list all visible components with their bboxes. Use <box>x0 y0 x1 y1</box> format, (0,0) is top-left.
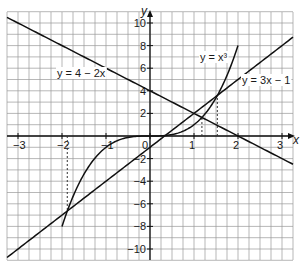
y-tick-label: −10 <box>127 243 146 255</box>
label-x-cubed: y = x³ <box>200 51 228 63</box>
x-tick-label: 3 <box>277 139 283 151</box>
label-4-minus-2x: y = 4 − 2x <box>57 67 106 79</box>
y-tick-label: 6 <box>140 62 146 74</box>
x-tick-label: −3 <box>13 139 26 151</box>
y-tick-label: −6 <box>133 198 146 210</box>
y-axis-name: y <box>140 4 148 18</box>
y-tick-label: 10 <box>134 17 146 29</box>
y-tick-label: 8 <box>140 40 146 52</box>
y-tick-label: −4 <box>133 175 146 187</box>
x-tick-label: 2 <box>233 139 239 151</box>
y-axis-arrow-icon <box>147 10 153 17</box>
label-3x-minus-1: y = 3x − 1 <box>242 74 290 86</box>
graph-figure: −3−2−10123−10−8−6−4−2246810 y = 4 − 2x y… <box>0 0 303 268</box>
y-tick-label: 2 <box>140 107 146 119</box>
plot-area: −3−2−10123−10−8−6−4−2246810 y = 4 − 2x y… <box>0 0 303 268</box>
y-tick-label: −8 <box>133 220 146 232</box>
x-axis-name: x <box>292 133 300 147</box>
x-tick-label: 1 <box>189 139 195 151</box>
axes <box>7 10 295 260</box>
